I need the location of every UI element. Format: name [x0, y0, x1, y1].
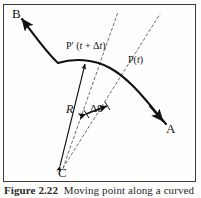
label-p-of-t: P(t) [128, 55, 143, 65]
caption-number: Figure 2.22 [4, 184, 58, 196]
diagram-canvas [0, 0, 201, 198]
figure-container: B A C R Δθ P′ (t + Δt) P(t) Figure 2.22 … [0, 0, 201, 198]
label-center-c: C [58, 166, 67, 179]
p-suffix: ) [140, 54, 143, 65]
figure-caption: Figure 2.22 Moving point along a curved [4, 184, 200, 197]
p-prime-prefix: P′ ( [66, 40, 80, 51]
p-prime-suffix: ) [102, 40, 105, 51]
caption-text: Moving point along a curved [64, 184, 194, 196]
curve-arrow-toward-a [150, 106, 163, 121]
dashed-radius-p [63, 14, 160, 168]
label-point-b: B [12, 7, 21, 20]
p-prefix: P( [128, 54, 137, 65]
dashed-radius-pprime [63, 12, 118, 168]
angle-tick-left [84, 110, 89, 118]
label-p-prime-t-plus-delta-t: P′ (t + Δt) [66, 41, 106, 51]
label-point-a: A [166, 122, 175, 135]
label-radius-r: R [66, 103, 73, 115]
label-delta-theta: Δθ [90, 103, 102, 114]
p-prime-mid: + Δ [82, 40, 99, 51]
